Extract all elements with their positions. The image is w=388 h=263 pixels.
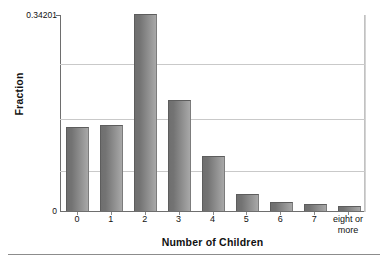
x-axis-title: Number of Children [60,236,365,248]
bar-5 [236,194,259,211]
footer-rule [8,254,380,255]
bar-7 [304,204,327,211]
bar-1 [100,125,123,211]
gridline-1 [60,119,365,120]
x-tick-label-8: eight or more [324,214,372,236]
bar-6 [270,202,293,211]
chart-figure: Fraction 0.34201 0 01234567eight or more… [0,0,388,263]
bar-4 [202,156,225,211]
bar-0 [66,127,89,211]
plot-area [60,15,365,211]
bar-2 [134,14,157,211]
gridline-0 [60,64,365,65]
bar-3 [168,100,191,211]
y-axis-tick-labels: 0.34201 0 [0,0,57,263]
bar-eight-or-more [338,206,361,211]
y-tick-label-max: 0.34201 [26,10,57,20]
